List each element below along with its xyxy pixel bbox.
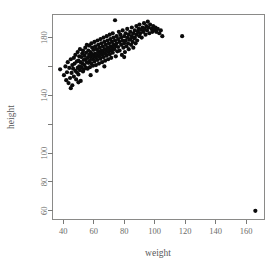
data-point — [68, 76, 72, 80]
data-point — [123, 50, 127, 54]
data-point — [76, 72, 80, 76]
x-tick-label: 140 — [209, 226, 222, 236]
data-point — [76, 80, 80, 84]
data-point — [58, 67, 62, 71]
plot-canvas: 406080100120140160 6080100140180 weight … — [0, 0, 278, 266]
data-point — [135, 38, 139, 42]
x-tick-label: 60 — [89, 226, 98, 236]
x-tick-label: 100 — [148, 226, 161, 236]
y-tick-label: 100 — [40, 147, 50, 160]
data-point — [69, 86, 73, 90]
data-point — [253, 209, 257, 213]
data-point — [114, 54, 118, 58]
data-point — [89, 73, 93, 77]
data-point — [62, 73, 66, 77]
x-tick-label: 120 — [179, 226, 192, 236]
y-axis-title: height — [6, 105, 16, 129]
data-point — [113, 18, 117, 22]
data-point — [131, 46, 135, 50]
data-point — [137, 23, 141, 27]
data-point — [111, 31, 115, 35]
data-point — [111, 51, 115, 55]
y-tick-label: 140 — [40, 89, 50, 102]
data-point — [127, 47, 131, 51]
y-tick-label: 80 — [40, 178, 50, 187]
y-tick-label: 180 — [40, 31, 50, 44]
data-point — [95, 69, 99, 73]
scatter-plot-figure: 406080100120140160 6080100140180 weight … — [0, 0, 278, 266]
data-point — [109, 56, 113, 60]
data-point — [180, 34, 184, 38]
data-point — [69, 71, 73, 75]
data-point — [125, 27, 129, 31]
data-point — [118, 48, 122, 52]
data-point — [63, 64, 67, 68]
data-point — [130, 25, 134, 29]
data-point — [65, 70, 69, 74]
data-point — [67, 66, 71, 70]
x-axis-title: weight — [145, 248, 171, 258]
data-point — [143, 33, 147, 37]
data-point — [122, 55, 126, 59]
data-point — [140, 36, 144, 40]
x-tick-label: 40 — [59, 226, 68, 236]
data-point — [160, 34, 164, 38]
data-point — [66, 81, 70, 85]
x-tick-label: 160 — [240, 226, 253, 236]
data-point — [159, 28, 163, 32]
y-tick-label: 60 — [40, 207, 50, 216]
data-point — [121, 28, 125, 32]
data-point — [102, 64, 106, 68]
x-tick-label: 80 — [120, 226, 129, 236]
data-point — [66, 60, 70, 64]
